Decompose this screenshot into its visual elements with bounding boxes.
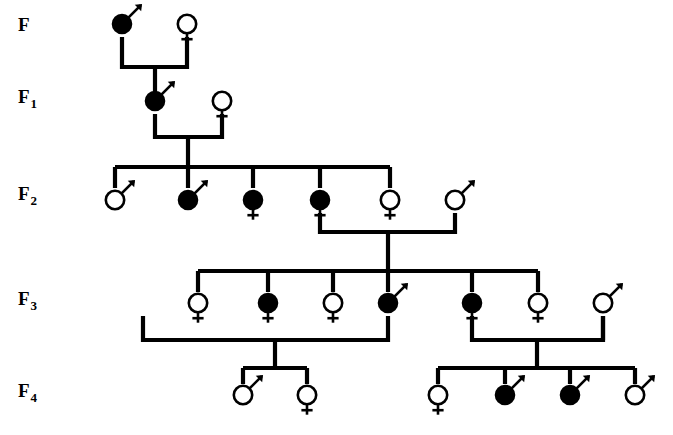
mating-F1 — [155, 114, 222, 137]
f2-female-1 — [244, 191, 262, 220]
f-male-1 — [113, 4, 142, 33]
generation-F1 — [146, 81, 231, 121]
f3-female-5-unaffected-circle — [529, 294, 547, 312]
f2-female-3 — [381, 191, 399, 220]
f3-female-5 — [529, 294, 547, 323]
f3-female-1-unaffected-circle — [189, 294, 207, 312]
f4-male-2-affected-circle — [496, 386, 514, 404]
f2-male-1-unaffected-circle — [106, 191, 124, 209]
f2-male-2-affected-circle — [179, 191, 197, 209]
f2-male-2 — [179, 180, 208, 209]
f1-female-1 — [213, 92, 231, 121]
f4-female-2 — [429, 386, 447, 415]
f2-female-2-affected-circle — [311, 191, 329, 209]
generation-F4 — [234, 375, 655, 415]
f3-female-4 — [463, 294, 481, 323]
f3-female-2 — [259, 294, 277, 323]
f-female-1-unaffected-circle — [178, 15, 196, 33]
f3-female-1 — [189, 294, 207, 323]
generation-F — [113, 4, 196, 44]
generation-label-F2: F2 — [18, 183, 37, 208]
f3-male-1-affected-circle — [379, 294, 397, 312]
f2-female-3-unaffected-circle — [381, 191, 399, 209]
f4-female-1-unaffected-circle — [298, 386, 316, 404]
f3-female-2-affected-circle — [259, 294, 277, 312]
f3-male-2 — [594, 283, 623, 312]
f3-female-4-affected-circle — [463, 294, 481, 312]
f2-male-1 — [106, 180, 135, 209]
f4-male-3 — [561, 375, 590, 404]
f4-male-3-affected-circle — [561, 386, 579, 404]
f3-male-2-unaffected-circle — [594, 294, 612, 312]
f4-female-2-unaffected-circle — [429, 386, 447, 404]
f1-male-1-affected-circle — [146, 92, 164, 110]
generation-label-F2-subscript: 2 — [31, 193, 38, 208]
generation-F2 — [106, 180, 475, 220]
f3-female-3-unaffected-circle — [324, 294, 342, 312]
generation-F3 — [189, 283, 623, 323]
f4-male-2 — [496, 375, 525, 404]
f2-female-2 — [311, 191, 329, 220]
lineage-lines — [115, 37, 635, 384]
mating-F3-left — [143, 316, 388, 340]
f3-male-1 — [379, 283, 408, 312]
generation-labels: FF1F2F3F4 — [18, 14, 38, 405]
generation-label-F1: F1 — [18, 86, 37, 111]
f1-female-1-unaffected-circle — [213, 92, 231, 110]
generation-label-F4-subscript: 4 — [31, 390, 38, 405]
f4-male-1-unaffected-circle — [234, 386, 252, 404]
mating-F — [122, 37, 187, 67]
generation-label-F: F — [18, 14, 30, 35]
f4-male-4-unaffected-circle — [626, 386, 644, 404]
f2-female-1-affected-circle — [244, 191, 262, 209]
generation-label-F4: F4 — [18, 380, 38, 405]
generation-label-F1-subscript: 1 — [31, 96, 38, 111]
f-female-1 — [178, 15, 196, 44]
f4-male-1 — [234, 375, 263, 404]
f2-male-3 — [446, 180, 475, 209]
f3-female-3 — [324, 294, 342, 323]
f4-male-4 — [626, 375, 655, 404]
generation-label-F3-subscript: 3 — [31, 298, 38, 313]
f1-male-1 — [146, 81, 175, 110]
generation-label-F3: F3 — [18, 288, 38, 313]
pedigree-chart: FF1F2F3F4 — [0, 0, 673, 435]
f-male-1-affected-circle — [113, 15, 131, 33]
f4-female-1 — [298, 386, 316, 415]
f2-male-3-unaffected-circle — [446, 191, 464, 209]
